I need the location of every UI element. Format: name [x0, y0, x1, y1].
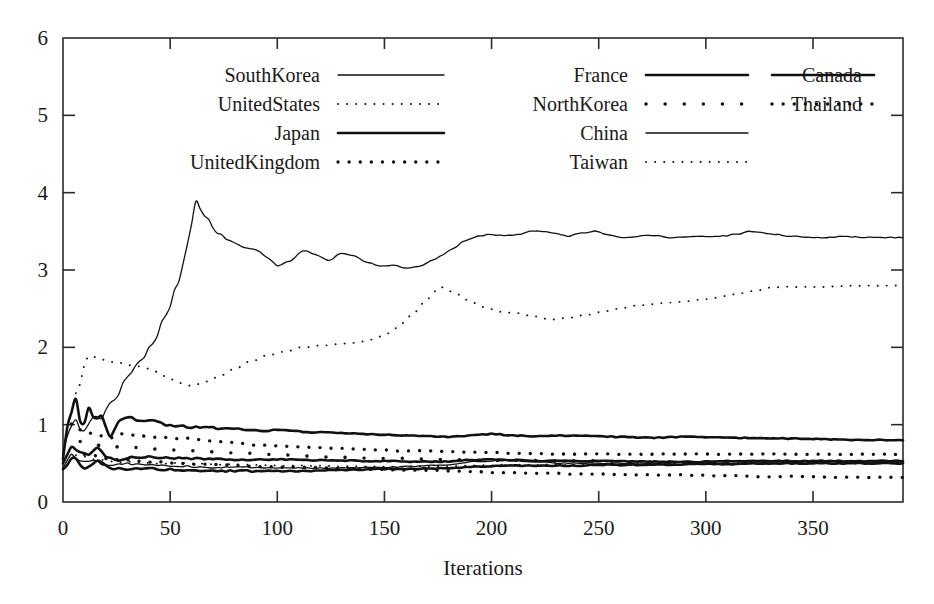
legend-label-unitedkingdom: UnitedKingdom [190, 151, 320, 174]
x-tick-label: 100 [262, 516, 294, 540]
y-tick-label: 6 [38, 26, 49, 50]
x-tick-label: 350 [797, 516, 829, 540]
y-tick-label: 2 [38, 335, 49, 359]
x-axis-title: Iterations [443, 556, 522, 580]
y-tick-label: 0 [38, 490, 49, 514]
x-tick-label: 0 [58, 516, 69, 540]
legend-label-unitedstates: UnitedStates [218, 93, 320, 115]
chart-container: 0123456 050100150200250300350 Iterations… [0, 0, 934, 604]
y-tick-label: 4 [38, 181, 49, 205]
y-tick-label: 1 [38, 413, 49, 437]
legend-label-japan: Japan [274, 122, 320, 145]
y-tick-label: 3 [38, 258, 49, 282]
x-tick-label: 250 [583, 516, 615, 540]
legend-label-southkorea: SouthKorea [224, 64, 320, 86]
legend-label-china: China [580, 122, 628, 144]
x-tick-label: 50 [160, 516, 181, 540]
line-chart: 0123456 050100150200250300350 Iterations… [0, 0, 934, 604]
chart-background [0, 0, 934, 604]
x-tick-label: 300 [690, 516, 722, 540]
x-tick-label: 200 [476, 516, 508, 540]
x-tick-label: 150 [369, 516, 401, 540]
legend-label-northkorea: NorthKorea [532, 93, 628, 115]
y-tick-label: 5 [38, 103, 49, 127]
legend-label-france: France [574, 64, 629, 86]
legend-label-taiwan: Taiwan [569, 151, 628, 173]
